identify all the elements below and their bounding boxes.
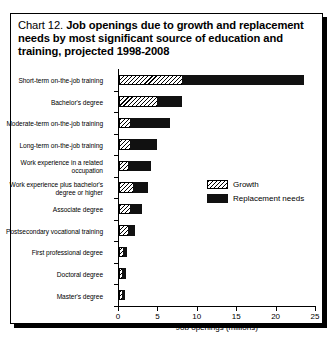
x-axis-tick-label: 20	[264, 312, 288, 321]
bar-segment-growth	[119, 161, 128, 172]
chart-bar-row: Short-term on-the-job training	[11, 69, 318, 93]
bar-segment-replacement	[130, 139, 157, 150]
bar-segment-growth	[119, 204, 130, 215]
growth-swatch-icon	[207, 180, 228, 189]
frame-shadow-bottom	[14, 324, 327, 328]
x-axis-tick-label: 0	[106, 312, 130, 321]
frame-shadow-right	[323, 17, 327, 328]
stacked-bar	[119, 204, 142, 215]
chart-bar-row: Long-term on-the-job training	[11, 134, 318, 158]
category-label: Master's degree	[3, 284, 106, 308]
x-axis-tick	[236, 307, 237, 311]
category-label: Work experience in a related occupation	[3, 155, 106, 179]
stacked-bar	[119, 75, 304, 86]
stacked-bar	[119, 118, 170, 129]
bar-segment-replacement	[133, 182, 148, 193]
legend-item-replacement: Replacement needs	[207, 194, 304, 203]
legend-label-replacement: Replacement needs	[233, 194, 304, 203]
chart-bar-row: Master's degree	[11, 284, 318, 308]
legend-label-growth: Growth	[233, 180, 259, 189]
category-label: Doctoral degree	[3, 263, 106, 287]
bar-segment-replacement	[123, 247, 127, 258]
stacked-bar	[119, 247, 127, 258]
bar-segment-replacement	[157, 96, 182, 107]
bar-segment-replacement	[128, 225, 134, 236]
x-axis-tick	[315, 307, 316, 311]
stacked-bar	[119, 161, 151, 172]
chart-bar-row: Doctoral degree	[11, 263, 318, 287]
x-axis-tick-label: 15	[224, 312, 248, 321]
chart-bar-row: First professional degree	[11, 241, 318, 265]
chart-title: Chart 12. Job openings due to growth and…	[18, 19, 316, 59]
category-label: First professional degree	[3, 241, 106, 265]
bar-segment-growth	[119, 225, 128, 236]
chart-bar-row: Bachelor's degree	[11, 91, 318, 115]
stacked-bar	[119, 139, 157, 150]
bar-segment-replacement	[122, 290, 125, 301]
bar-segment-replacement	[182, 75, 304, 86]
stacked-bar	[119, 290, 125, 301]
x-axis-tick	[118, 307, 119, 311]
chart-title-prefix: Chart 12.	[18, 19, 66, 31]
x-axis-tick	[276, 307, 277, 311]
x-axis-tick	[197, 307, 198, 311]
chart-bar-row: Work experience in a related occupation	[11, 155, 318, 179]
bar-segment-growth	[119, 75, 182, 86]
category-label: Work experience plus bachelor's degree o…	[3, 177, 106, 201]
chart-frame: Chart 12. Job openings due to growth and…	[10, 13, 323, 324]
category-label: Associate degree	[3, 198, 106, 222]
stacked-bar	[119, 96, 182, 107]
bar-segment-replacement	[130, 118, 170, 129]
plot-area: Short-term on-the-job trainingBachelor's…	[11, 69, 324, 325]
category-label: Short-term on-the-job training	[3, 69, 106, 93]
bar-segment-growth	[119, 139, 130, 150]
chart-bar-row: Moderate-term on-the-job training	[11, 112, 318, 136]
category-label: Postsecondary vocational training	[3, 220, 106, 244]
x-axis-tick	[157, 307, 158, 311]
chart-legend: Growth Replacement needs	[207, 180, 304, 208]
category-label: Moderate-term on-the-job training	[3, 112, 106, 136]
replacement-swatch-icon	[207, 194, 228, 203]
x-axis-tick-label: 5	[145, 312, 169, 321]
category-label: Long-term on-the-job training	[3, 134, 106, 158]
x-axis-tick-label: 10	[185, 312, 209, 321]
category-label: Bachelor's degree	[3, 91, 106, 115]
stacked-bar	[119, 268, 126, 279]
bar-segment-growth	[119, 118, 130, 129]
stacked-bar	[119, 182, 148, 193]
bar-segment-replacement	[130, 204, 142, 215]
stacked-bar	[119, 225, 135, 236]
legend-item-growth: Growth	[207, 180, 304, 189]
chart-bar-row: Postsecondary vocational training	[11, 220, 318, 244]
bar-segment-growth	[119, 96, 157, 107]
bar-segment-growth	[119, 182, 133, 193]
bar-segment-replacement	[128, 161, 150, 172]
bar-segment-replacement	[122, 268, 126, 279]
